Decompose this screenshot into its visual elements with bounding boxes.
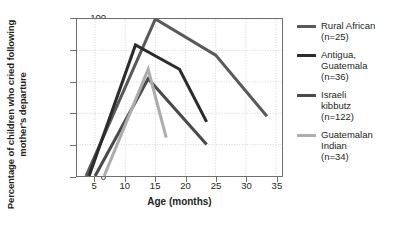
chart-legend: Rural African (n=25)Antigua, Guatemala (… [297, 20, 393, 169]
legend-swatch-icon [297, 94, 316, 97]
legend-swatch-icon [297, 54, 316, 57]
x-tick-label: 25 [204, 180, 228, 191]
x-tick-label: 35 [265, 180, 289, 191]
x-tick-label: 30 [234, 180, 258, 191]
legend-item[interactable]: Israeli kibbutz (n=122) [297, 89, 393, 122]
legend-item[interactable]: Antigua, Guatemala (n=36) [297, 49, 393, 82]
x-tick-label: 20 [174, 180, 198, 191]
x-axis-title: Age (months) [76, 196, 283, 207]
x-tick-label: 15 [143, 180, 167, 191]
legend-swatch-icon [297, 25, 316, 28]
plot-area [76, 18, 283, 177]
legend-swatch-icon [297, 134, 316, 137]
y-tick-mark [70, 177, 76, 178]
plot-svg [77, 19, 282, 176]
legend-item[interactable]: Rural African (n=25) [297, 20, 393, 42]
legend-label: Israeli kibbutz (n=122) [321, 89, 354, 122]
x-tick-label: 5 [82, 180, 106, 191]
legend-item[interactable]: Guatemalan Indian (n=34) [297, 129, 393, 162]
y-axis-title: Percentage of children who cried followi… [0, 0, 56, 229]
y-axis-title-text: Percentage of children who cried followi… [5, 0, 51, 229]
data-line-2 [95, 79, 207, 176]
legend-label: Antigua, Guatemala (n=36) [321, 49, 367, 82]
legend-label: Rural African (n=25) [321, 20, 375, 42]
x-tick-label: 10 [113, 180, 137, 191]
chart-figure: Percentage of children who cried followi… [0, 0, 393, 229]
data-line-3 [104, 69, 166, 176]
legend-label: Guatemalan Indian (n=34) [321, 129, 373, 162]
